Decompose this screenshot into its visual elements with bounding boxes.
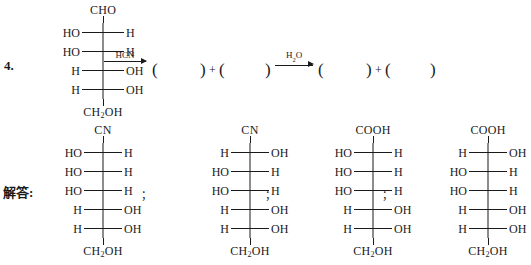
bond-stem-top: [103, 136, 104, 143]
substituent-right: OH: [126, 84, 148, 96]
bond-left: [469, 228, 488, 229]
bond-left: [354, 171, 373, 172]
product-3-rows: HOHHOHHOHHOHHOH: [328, 143, 418, 238]
substituent-left: H: [205, 147, 229, 159]
substituent-right: OH: [509, 147, 531, 159]
bond-stem-bottom: [250, 238, 251, 245]
bond-stem-bottom: [103, 99, 104, 106]
bond-left: [82, 32, 103, 33]
bond-right: [103, 32, 124, 33]
substituent-right: H: [124, 166, 148, 178]
substituent-left: H: [58, 223, 82, 235]
bond-left: [354, 152, 373, 153]
substituent-right: H: [394, 166, 418, 178]
bond-right: [103, 171, 122, 172]
bond-right: [250, 228, 269, 229]
bond-stem-bottom: [103, 238, 104, 245]
product-3-top-group: COOH: [355, 124, 390, 136]
reactant-top-group: CHO: [90, 4, 116, 16]
bond-left: [84, 190, 103, 191]
bond-stem-top: [103, 16, 104, 23]
paren-close-1: ): [200, 61, 206, 78]
separator-2: ；: [265, 190, 276, 201]
product-1-bottom-group: CH2OH: [83, 245, 123, 259]
paren-open-2: (: [219, 61, 225, 78]
bond-left: [354, 190, 373, 191]
paren-open-3: (: [318, 61, 324, 78]
substituent-right: H: [394, 185, 418, 197]
substituent-left: H: [58, 65, 80, 77]
substituent-left: HO: [328, 166, 352, 178]
bond-right: [488, 152, 507, 153]
paren-open-4: (: [385, 61, 391, 78]
separator-3: ；: [382, 190, 393, 201]
bond-right: [103, 190, 122, 191]
question-number: 4.: [4, 58, 14, 74]
paren-close-4: ): [430, 61, 436, 78]
bond-right: [250, 171, 269, 172]
substituent-left: H: [328, 204, 352, 216]
bond-left: [469, 209, 488, 210]
backbone-chain: [373, 143, 374, 238]
backbone-chain: [488, 143, 489, 238]
product-4-top-group: COOH: [470, 124, 505, 136]
bond-right: [103, 209, 122, 210]
substituent-left: H: [58, 204, 82, 216]
water-reaction-arrow: H2O: [275, 50, 313, 71]
bond-right: [250, 209, 269, 210]
bond-stem-top: [373, 136, 374, 143]
substituent-right: OH: [271, 147, 295, 159]
substituent-left: H: [205, 204, 229, 216]
bond-left: [231, 190, 250, 191]
substituent-left: H: [328, 223, 352, 235]
paren-close-2: ): [265, 61, 271, 78]
bond-right: [103, 89, 124, 90]
product-1-top-group: CN: [94, 124, 111, 136]
substituent-left: HO: [443, 166, 467, 178]
product-2-top-group: CN: [241, 124, 258, 136]
hcn-reaction-arrow: HCN: [104, 50, 146, 67]
bond-right: [373, 228, 392, 229]
bond-left: [354, 209, 373, 210]
substituent-left: HO: [58, 185, 82, 197]
paren-open-1: (: [152, 61, 158, 78]
substituent-left: HO: [205, 185, 229, 197]
bond-left: [231, 152, 250, 153]
substituent-right: OH: [271, 204, 295, 216]
bond-right: [103, 152, 122, 153]
bond-stem-bottom: [488, 238, 489, 245]
product-4-bottom-group: CH2OH: [468, 245, 508, 259]
bond-right: [373, 209, 392, 210]
bond-right: [250, 152, 269, 153]
product-2-bottom-group: CH2OH: [230, 245, 270, 259]
substituent-right: H: [509, 166, 531, 178]
answer-label: 解答:: [3, 186, 33, 200]
bond-right: [488, 228, 507, 229]
bond-left: [231, 171, 250, 172]
bond-right: [373, 152, 392, 153]
bond-left: [84, 171, 103, 172]
substituent-left: H: [443, 204, 467, 216]
bond-stem-bottom: [373, 238, 374, 245]
bond-left: [82, 89, 103, 90]
product-fischer-projection-2: CN HOHHOHHOHHOHHOH CH2OH: [205, 124, 295, 259]
bond-right: [373, 171, 392, 172]
substituent-right: OH: [394, 204, 418, 216]
bond-left: [469, 171, 488, 172]
bond-left: [354, 228, 373, 229]
product-4-rows: HOHHOHHOHHOHHOH: [443, 143, 531, 238]
paren-close-3: ): [366, 61, 372, 78]
substituent-left: HO: [58, 27, 80, 39]
substituent-left: HO: [58, 147, 82, 159]
substituent-left: HO: [328, 147, 352, 159]
substituent-left: HO: [205, 166, 229, 178]
backbone-chain: [103, 143, 104, 238]
substituent-right: OH: [271, 223, 295, 235]
bond-right: [488, 171, 507, 172]
reactant-bottom-group: CH2OH: [83, 106, 123, 120]
bond-left: [231, 209, 250, 210]
bond-right: [103, 70, 124, 71]
substituent-right: OH: [509, 204, 531, 216]
backbone-chain: [250, 143, 251, 238]
